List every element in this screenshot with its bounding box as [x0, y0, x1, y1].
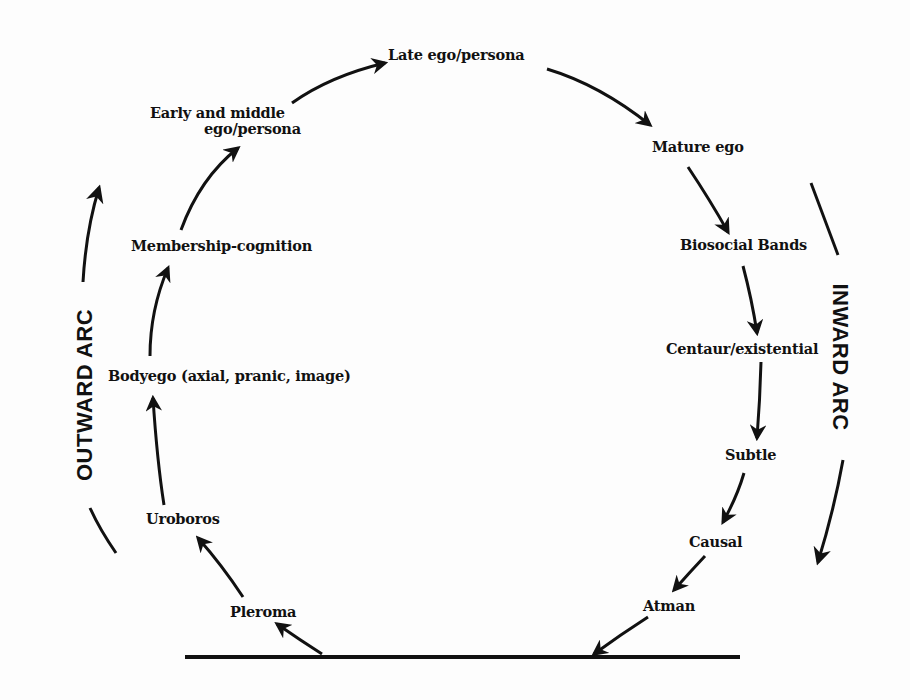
- development-cycle-diagram: Late ego/persona Early and middle ego/pe…: [0, 0, 910, 700]
- arrow-baseline-to-pleroma: [277, 624, 322, 654]
- arrow-biosocial-to-centaur: [743, 266, 757, 333]
- stage-atman: Atman: [643, 597, 695, 614]
- outward-arc-label: OUTWARD ARC: [72, 295, 98, 495]
- outward-arc-lower-stroke: [90, 508, 116, 553]
- stage-bodyego: Bodyego (axial, pranic, image): [108, 367, 351, 384]
- stage-biosocial-bands: Biosocial Bands: [680, 236, 807, 253]
- stage-mature-ego: Mature ego: [652, 138, 744, 155]
- arrow-late-ego-to-mature-ego: [547, 69, 650, 125]
- stage-causal: Causal: [689, 533, 742, 550]
- arrow-subtle-to-causal: [723, 473, 744, 522]
- arrow-membership-to-early-ego: [181, 148, 238, 230]
- outward-arc-upper-arrow: [83, 188, 99, 282]
- stage-uroboros: Uroboros: [146, 510, 220, 527]
- stage-subtle: Subtle: [725, 446, 776, 463]
- stage-membership-cognition: Membership-cognition: [131, 237, 312, 254]
- arrow-bodyego-to-membership: [150, 268, 168, 356]
- stage-late-ego-persona: Late ego/persona: [388, 46, 524, 63]
- arrow-early-ego-to-late-ego: [292, 63, 385, 103]
- arrow-centaur-to-subtle: [757, 362, 761, 438]
- stage-centaur-existential: Centaur/existential: [666, 340, 818, 357]
- stage-pleroma: Pleroma: [230, 603, 296, 620]
- inward-arc-label: INWARD ARC: [827, 267, 853, 447]
- arrow-uroboros-to-bodyego: [153, 398, 164, 505]
- stage-early-middle-ego-line1: Early and middle: [150, 104, 285, 121]
- arrow-mature-ego-to-biosocial: [688, 167, 728, 232]
- arrow-causal-to-atman: [674, 556, 705, 590]
- stage-early-middle-ego-line2: ego/persona: [204, 120, 301, 137]
- inward-arc-lower-arrow: [818, 460, 843, 562]
- inward-arc-upper-stroke: [811, 183, 838, 255]
- arrow-atman-to-baseline: [594, 617, 648, 654]
- arrow-pleroma-to-uroboros: [198, 538, 243, 597]
